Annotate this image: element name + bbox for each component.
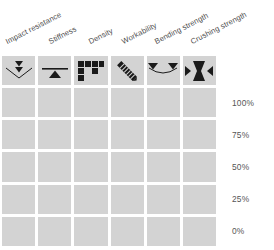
icon-cell-crushing-strength [183,56,216,85]
table-cell[interactable] [111,88,144,117]
table-cell[interactable] [38,217,71,246]
axis-label-75: 75% [219,120,274,149]
table-cell[interactable] [2,120,35,149]
table-cell[interactable] [38,152,71,181]
icon-cell-impact-resistance [2,56,35,85]
table-cell[interactable] [2,185,35,214]
table-cell[interactable] [74,120,107,149]
icon-cell-workability [111,56,144,85]
table-cell[interactable] [111,152,144,181]
table-cell[interactable] [74,88,107,117]
table-cell[interactable] [147,185,180,214]
chart-grid [2,56,216,246]
axis-label-50: 50% [219,152,274,181]
table-cell[interactable] [147,88,180,117]
table-cell[interactable] [2,217,35,246]
impact-arrows-icon [4,60,34,82]
percentage-axis: 100% 75% 50% 25% 0% [219,56,274,246]
saw-file-icon [113,59,141,83]
bending-curve-arrows-icon [147,61,179,81]
table-cell[interactable] [183,185,216,214]
table-cell[interactable] [38,88,71,117]
column-header-density: Density [88,27,115,46]
axis-label-100: 100% [219,88,274,117]
table-cell[interactable] [111,185,144,214]
table-cell[interactable] [2,152,35,181]
axis-label-0: 0% [219,217,274,246]
icon-cell-bending-strength [147,56,180,85]
crushing-arrows-icon [184,60,214,82]
column-headers: Impact resistance Stiffness Density Work… [0,0,274,56]
axis-label-25: 25% [219,185,274,214]
table-cell[interactable] [147,152,180,181]
table-cell[interactable] [74,217,107,246]
table-cell[interactable] [111,217,144,246]
table-cell[interactable] [183,120,216,149]
table-cell[interactable] [183,217,216,246]
table-cell[interactable] [147,217,180,246]
table-cell[interactable] [183,152,216,181]
table-cell[interactable] [74,152,107,181]
table-cell[interactable] [2,88,35,117]
table-cell[interactable] [147,120,180,149]
beam-fulcrum-icon [40,60,70,82]
table-cell[interactable] [38,120,71,149]
table-cell[interactable] [111,120,144,149]
table-cell[interactable] [38,185,71,214]
table-cell[interactable] [183,88,216,117]
property-comparison-chart: Impact resistance Stiffness Density Work… [0,0,274,250]
column-header-stiffness: Stiffness [48,26,78,46]
density-blocks-icon [77,60,105,82]
table-cell[interactable] [74,185,107,214]
icon-cell-density [74,56,107,85]
axis-label-spacer [219,56,274,85]
column-header-workability: Workability [121,22,158,46]
icon-cell-stiffness [38,56,71,85]
